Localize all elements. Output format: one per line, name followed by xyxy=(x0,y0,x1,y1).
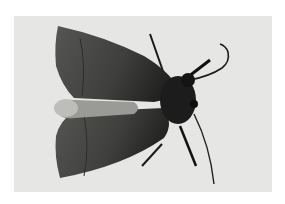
head xyxy=(181,73,195,87)
lower-wing xyxy=(56,108,170,178)
moth-photo: Grayscale photograph of a moth with fold… xyxy=(14,16,272,192)
leg-mid xyxy=(180,126,196,166)
moth-illustration xyxy=(14,16,272,192)
abdomen-tip xyxy=(54,99,78,117)
antenna-lower xyxy=(194,114,214,184)
eye xyxy=(190,100,198,108)
